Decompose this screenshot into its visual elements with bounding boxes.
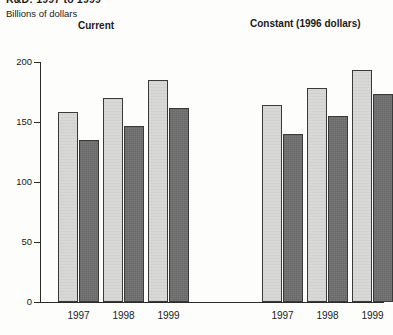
y-tick-label: 200: [0, 56, 32, 67]
bar-current-1998-dark: [124, 126, 144, 302]
group-header-constant: Constant (1996 dollars): [250, 18, 361, 29]
y-tick-mark: [34, 62, 41, 63]
bar-current-1997-dark: [79, 140, 99, 302]
y-tick-label: 50: [0, 236, 32, 247]
bar-constant-1998-light: [307, 88, 327, 302]
x-axis-label-1998-constant: 1998: [308, 310, 348, 321]
y-tick-label: 100: [0, 176, 32, 187]
bar-current-1999-light: [148, 80, 168, 302]
y-tick-mark: [34, 182, 41, 183]
bar-current-1998-light: [103, 98, 123, 302]
x-axis-label-1997-constant: 1997: [263, 310, 303, 321]
x-axis-label-1999-current: 1999: [149, 310, 189, 321]
chart-title: R&D: 1997 to 1999: [6, 0, 101, 5]
x-axis-label-1998-current: 1998: [104, 310, 144, 321]
y-tick-mark: [34, 242, 41, 243]
y-axis-caption: Billions of dollars: [6, 8, 77, 19]
bar-constant-1997-light: [262, 105, 282, 302]
y-tick-label: 150: [0, 116, 32, 127]
y-tick-mark: [34, 302, 41, 303]
bar-constant-1999-dark: [373, 94, 393, 302]
bar-constant-1997-dark: [283, 134, 303, 302]
group-header-current: Current: [78, 20, 114, 31]
bar-constant-1999-light: [352, 70, 372, 302]
x-axis-label-1999-constant: 1999: [353, 310, 393, 321]
plot-area: 200 150 100 50 0 1997 1998 1999 1997 199…: [40, 62, 384, 302]
bar-current-1997-light: [58, 112, 78, 302]
y-tick-label: 0: [0, 296, 32, 307]
x-axis-line: [40, 302, 384, 303]
y-tick-mark: [34, 122, 41, 123]
bar-constant-1998-dark: [328, 116, 348, 302]
bar-current-1999-dark: [169, 108, 189, 302]
x-axis-label-1997-current: 1997: [59, 310, 99, 321]
